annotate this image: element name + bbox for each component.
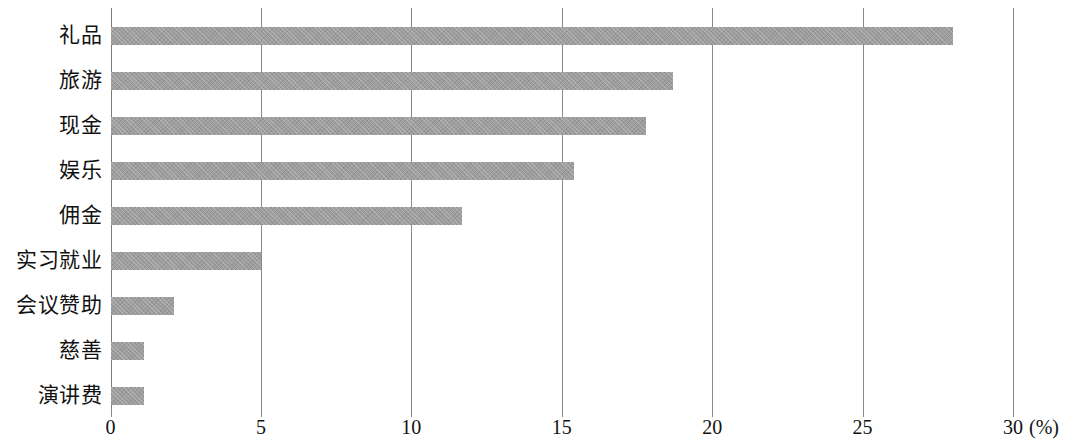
xtick-label-5: 5 xyxy=(256,417,266,437)
category-label: 现金 xyxy=(2,115,102,136)
bar xyxy=(111,72,674,90)
xtick-label-30: 30 xyxy=(1003,417,1023,437)
bar-row xyxy=(111,72,674,90)
axis-unit-label: (%) xyxy=(1029,417,1059,437)
bar xyxy=(111,162,574,180)
gridline-20 xyxy=(712,8,713,408)
bar-row xyxy=(111,387,144,405)
gridline-15 xyxy=(562,8,563,408)
category-label: 实习就业 xyxy=(2,250,102,271)
bar xyxy=(111,297,174,315)
xtick-label-0: 0 xyxy=(106,417,116,437)
category-label: 佣金 xyxy=(2,205,102,226)
category-label: 旅游 xyxy=(2,70,102,91)
bar-row xyxy=(111,162,574,180)
category-axis-labels: 礼品旅游现金娱乐佣金实习就业会议赞助慈善演讲费 xyxy=(0,8,102,408)
bar xyxy=(111,207,463,225)
bar-row xyxy=(111,207,463,225)
gridline-25 xyxy=(863,8,864,408)
category-label: 慈善 xyxy=(2,340,102,361)
category-label: 娱乐 xyxy=(2,160,102,181)
xtick-label-10: 10 xyxy=(401,417,421,437)
bar xyxy=(111,342,144,360)
bar xyxy=(111,27,953,45)
bar xyxy=(111,387,144,405)
bar-row xyxy=(111,27,953,45)
category-label: 演讲费 xyxy=(2,385,102,406)
bar-row xyxy=(111,117,646,135)
gridline-30 xyxy=(1013,8,1014,408)
horizontal-bar-chart: 礼品旅游现金娱乐佣金实习就业会议赞助慈善演讲费 051015202530 (%) xyxy=(0,0,1070,441)
bar xyxy=(111,117,646,135)
bar-row xyxy=(111,342,144,360)
xtick-label-25: 25 xyxy=(853,417,873,437)
category-label: 礼品 xyxy=(2,25,102,46)
xtick-label-20: 20 xyxy=(702,417,722,437)
bar xyxy=(111,252,261,270)
bar-row xyxy=(111,252,261,270)
xtick-label-15: 15 xyxy=(552,417,572,437)
bar-row xyxy=(111,297,174,315)
category-label: 会议赞助 xyxy=(2,295,102,316)
plot-area xyxy=(111,8,1014,408)
